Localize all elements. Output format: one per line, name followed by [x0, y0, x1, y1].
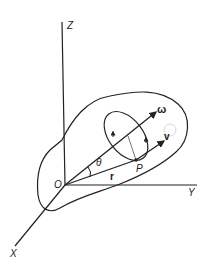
origin-label: O [54, 179, 62, 190]
radial-line [128, 136, 136, 160]
z-axis [62, 22, 65, 185]
y-axis-label: Y [188, 187, 196, 198]
position-label: r [110, 171, 114, 182]
omega-label: ω [157, 103, 166, 115]
rigid-body-diagram: Z Y X O P ω v r θ [0, 0, 207, 264]
point-p-label: P [136, 163, 143, 174]
x-axis-label: X [9, 248, 17, 259]
point-p [134, 158, 138, 162]
velocity-vector [136, 141, 164, 160]
x-axis [15, 185, 65, 246]
z-axis-label: Z [66, 20, 74, 31]
theta-arc [88, 167, 91, 177]
velocity-label: v [164, 131, 170, 142]
theta-label: θ [96, 157, 102, 168]
